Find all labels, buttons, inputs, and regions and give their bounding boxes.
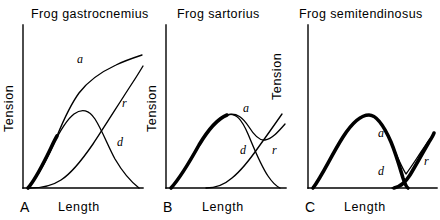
panel-c-label-r: r [424,154,429,168]
panel-b: Frog sartorius a d r Tension B Length [145,7,286,215]
panel-c-letter: C [305,199,315,215]
panel-b-letter: B [163,199,172,215]
panel-b-bold-overlap [171,115,227,188]
panel-b-label-r: r [272,143,277,157]
panel-a-title: Frog gastrocnemius [31,7,149,21]
panel-b-title: Frog sartorius [177,7,260,21]
panel-a-curve-d [28,111,139,188]
panel-c-y-axis-label: Tension [270,53,284,100]
panel-b-x-axis-label: Length [202,200,244,214]
panel-a: Frog gastrocnemius a r d Tension A Lengt… [2,7,149,215]
panel-a-bold-overlap [28,136,57,188]
panel-c: Frog semitendinosus a d r Tension C Leng… [270,7,437,215]
panel-c-title: Frog semitendinosus [299,7,423,21]
panel-c-curve-a [313,115,430,188]
muscle-tension-length-figure: Frog gastrocnemius a r d Tension A Lengt… [0,0,440,220]
panel-a-letter: A [20,199,30,215]
panel-a-y-axis-label: Tension [2,85,16,132]
panel-b-curve-d [171,114,280,188]
panel-c-x-axis-label: Length [344,200,386,214]
panel-a-label-a: a [77,52,83,66]
panel-c-bold-overlap [313,115,408,188]
panel-b-label-d: d [240,143,247,157]
panel-a-label-r: r [122,96,127,110]
panel-a-curve-a [28,55,142,188]
panel-b-y-axis-label: Tension [145,85,159,132]
panel-c-label-a: a [378,126,384,140]
panel-c-label-d: d [378,164,385,178]
panel-a-label-d: d [117,135,124,149]
figure-canvas: Frog gastrocnemius a r d Tension A Lengt… [0,0,440,220]
panel-a-x-axis-label: Length [58,200,100,214]
panel-b-label-a: a [243,101,249,115]
